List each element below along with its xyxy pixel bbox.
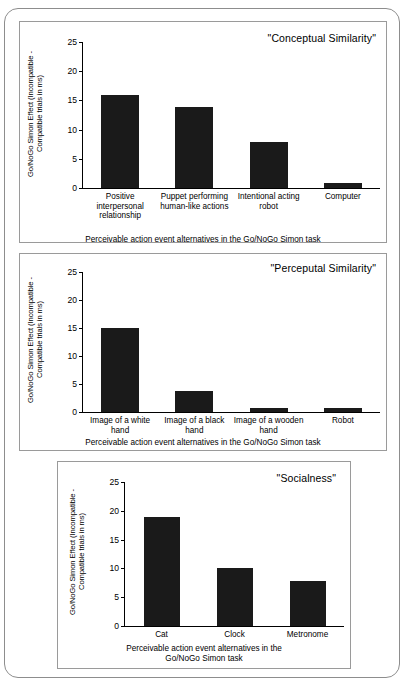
bar	[324, 408, 362, 412]
y-tick-label: 25	[67, 37, 77, 47]
y-tick-mark	[121, 511, 124, 512]
x-tick-label: Puppet performing human-like actions	[157, 192, 231, 221]
y-tick-mark	[79, 130, 82, 131]
y-tick-mark	[79, 188, 82, 189]
x-axis-label-perceptual: Perceivable action event alternatives in…	[20, 438, 386, 448]
y-tick-mark	[121, 540, 124, 541]
x-tick-label: Clock	[198, 630, 271, 640]
y-tick-mark	[79, 356, 82, 357]
bar	[250, 408, 288, 412]
y-tick-label: 20	[67, 295, 77, 305]
x-axis-label-socialness: Perceivable action event alternatives in…	[58, 644, 350, 664]
y-tick-label: 10	[109, 563, 119, 573]
y-tick-mark	[79, 272, 82, 273]
y-tick-label: 20	[67, 66, 77, 76]
bar-slot	[271, 482, 344, 626]
x-tick-label: Image of a white hand	[83, 416, 157, 435]
y-tick-label: 0	[114, 621, 119, 631]
x-axis-label-conceptual: Perceivable action event alternatives in…	[20, 235, 386, 245]
y-tick-label: 25	[67, 267, 77, 277]
y-axis-label-conceptual: Go/NoGo Simon Effect (Incompatible - Com…	[26, 40, 48, 188]
y-tick-mark	[79, 42, 82, 43]
x-tick-labels-socialness: CatClockMetronome	[125, 630, 344, 640]
y-tick-mark	[121, 482, 124, 483]
y-tick-mark	[79, 159, 82, 160]
y-tick-label: 20	[109, 506, 119, 516]
bar	[250, 142, 288, 188]
x-tick-label: Image of a wooden hand	[232, 416, 306, 435]
y-tick-label: 0	[72, 183, 77, 193]
x-tick-label: Image of a black hand	[157, 416, 231, 435]
bar	[290, 581, 326, 626]
plot-area-conceptual: 2520151050	[82, 42, 380, 188]
bar	[175, 391, 213, 412]
bar	[101, 328, 139, 412]
y-tick-mark	[79, 71, 82, 72]
y-tick-mark	[79, 300, 82, 301]
bar	[217, 568, 253, 626]
x-tick-label: Robot	[306, 416, 380, 435]
y-tick-label: 5	[72, 154, 77, 164]
y-axis-label-perceptual: Go/NoGo Simon Effect (Incompatible - Com…	[26, 270, 48, 410]
bars-layer-socialness	[125, 482, 344, 626]
plot-area-perceptual: 2520151050	[82, 272, 380, 412]
chart-panel-perceptual-similarity: "Perceputal Similarity" Go/NoGo Simon Ef…	[19, 253, 387, 451]
x-tick-label: Positive interpersonal relationship	[83, 192, 157, 221]
y-tick-mark	[121, 626, 124, 627]
plot-area-socialness: 2520151050	[124, 482, 344, 626]
y-tick-label: 15	[109, 535, 119, 545]
bar	[175, 107, 213, 188]
x-tick-label: Computer	[306, 192, 380, 221]
x-axis-line	[82, 188, 380, 189]
bar-slot	[306, 272, 380, 412]
y-tick-mark	[121, 597, 124, 598]
y-tick-mark	[79, 384, 82, 385]
y-tick-mark	[79, 412, 82, 413]
bar-slot	[157, 272, 231, 412]
bar-slot	[232, 272, 306, 412]
y-tick-label: 10	[67, 351, 77, 361]
chart-panel-socialness: "Socialness" Go/NoGo Simon Effect (Incom…	[57, 461, 351, 669]
x-tick-label: Intentional acting robot	[232, 192, 306, 221]
y-tick-label: 5	[114, 592, 119, 602]
y-tick-label: 5	[72, 379, 77, 389]
bar	[324, 183, 362, 188]
y-tick-label: 0	[72, 407, 77, 417]
x-axis-line	[82, 412, 380, 413]
x-tick-label: Metronome	[271, 630, 344, 640]
bar-slot	[306, 42, 380, 188]
x-axis-line	[124, 626, 344, 627]
bar-slot	[157, 42, 231, 188]
bar-slot	[232, 42, 306, 188]
bars-layer-perceptual	[83, 272, 380, 412]
bars-layer-conceptual	[83, 42, 380, 188]
y-axis-label-socialness: Go/NoGo Simon Effect (Incompatible - Com…	[68, 480, 90, 624]
chart-panel-conceptual-similarity: "Conceptual Similarity" Go/NoGo Simon Ef…	[19, 21, 387, 243]
bar-slot	[83, 42, 157, 188]
y-tick-label: 25	[109, 477, 119, 487]
bar	[144, 517, 180, 626]
y-tick-label: 10	[67, 125, 77, 135]
y-tick-mark	[79, 100, 82, 101]
x-tick-labels-perceptual: Image of a white handImage of a black ha…	[83, 416, 380, 435]
bar-slot	[198, 482, 271, 626]
y-tick-label: 15	[67, 323, 77, 333]
bar-slot	[83, 272, 157, 412]
x-tick-label: Cat	[125, 630, 198, 640]
bar	[101, 95, 139, 188]
y-tick-mark	[121, 568, 124, 569]
y-tick-label: 15	[67, 95, 77, 105]
figure-outer-frame: "Conceptual Similarity" Go/NoGo Simon Ef…	[4, 8, 400, 678]
y-tick-mark	[79, 328, 82, 329]
bar-slot	[125, 482, 198, 626]
x-tick-labels-conceptual: Positive interpersonal relationshipPuppe…	[83, 192, 380, 221]
